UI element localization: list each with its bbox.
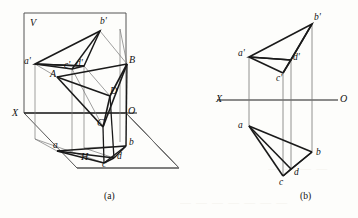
top-view-edge-a-d <box>249 126 291 169</box>
label-h-plane: H <box>81 152 88 162</box>
label-point-d-top-b: d <box>294 168 299 178</box>
label-point-c-prime-b: c' <box>276 74 282 84</box>
label-axis-o-a: O <box>128 106 135 116</box>
label-axis-x-b: X <box>216 94 222 104</box>
caption-panel-a: (a) <box>104 192 115 202</box>
projector-ray-B-long <box>100 31 127 64</box>
label-axis-x-a: X <box>12 108 18 118</box>
label-axis-o-b: O <box>340 94 347 104</box>
label-point-b-top-b: b <box>316 148 321 158</box>
label-point-a-top-b: a <box>238 121 243 131</box>
label-point-b-prime-b: b' <box>314 13 321 23</box>
front-view-outline <box>249 24 312 60</box>
label-point-b-prime-a: b' <box>100 17 107 27</box>
label-point-c-top-b: c <box>279 178 283 188</box>
label-point-c-top-a: c <box>102 160 106 170</box>
caption-panel-b: (b) <box>300 192 311 202</box>
label-v-plane: V <box>30 18 36 28</box>
label-point-D: D <box>110 86 117 96</box>
label-point-d-prime-b: d' <box>293 53 300 63</box>
label-point-C: C <box>97 118 104 128</box>
panel-a-geometry <box>24 13 179 168</box>
label-point-c-prime-a: c' <box>64 61 70 71</box>
label-point-d-prime-a: d' <box>76 59 83 69</box>
drawing-surface <box>0 0 358 218</box>
link-bar-C <box>103 127 104 163</box>
label-point-a-prime-a: a' <box>24 57 31 67</box>
label-point-a-prime-b: a' <box>238 49 245 59</box>
top-view-edge-c-d <box>283 169 291 176</box>
label-point-B: B <box>129 55 135 65</box>
label-point-d-top-a: d <box>117 152 122 162</box>
label-point-A: A <box>50 69 56 79</box>
label-point-a-top-a: a <box>53 141 58 151</box>
label-point-b-top-a: b <box>129 138 134 148</box>
figure-canvas: — — — — — — — — — — — <box>0 0 358 218</box>
